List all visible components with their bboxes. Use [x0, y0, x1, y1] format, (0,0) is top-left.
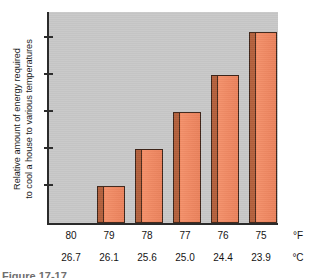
x-label-c-1: 26.1 [91, 250, 127, 266]
bar-78f[interactable] [135, 149, 163, 223]
bar-side-face [136, 150, 142, 222]
y-axis-label: Relative amount of energy required to co… [0, 12, 46, 225]
y-axis-label-line-1: Relative amount of energy required [12, 39, 24, 198]
bar-slot-78f [135, 12, 163, 223]
bar-slot-76f [211, 12, 239, 223]
x-axis-fahrenheit-row: 80 79 78 77 76 75 °F [47, 228, 313, 244]
bar-79f[interactable] [97, 186, 125, 223]
x-label-c-0: 26.7 [53, 250, 89, 266]
bar-front-face [181, 113, 200, 222]
x-label-f-1: 79 [93, 228, 125, 244]
bar-side-face [174, 113, 180, 222]
y-axis-label-line-2: to cool a house to various temperatures [23, 39, 35, 198]
x-label-c-3: 25.0 [167, 250, 203, 266]
bar-side-face [250, 33, 256, 222]
bar-series [49, 12, 278, 223]
bar-chart-figure: Relative amount of energy required to co… [0, 0, 313, 278]
bar-slot-75f [249, 12, 277, 223]
x-label-c-2: 25.6 [129, 250, 165, 266]
plot-area [47, 12, 278, 225]
x-label-c-5: 23.9 [243, 250, 279, 266]
bar-slot-80f [59, 12, 87, 223]
bar-slot-79f [97, 12, 125, 223]
bar-front-face [219, 76, 238, 222]
bar-front-face [105, 187, 124, 222]
x-label-f-5: 75 [245, 228, 277, 244]
x-axis-celsius-row: 26.7 26.1 25.6 25.0 24.4 23.9 °C [47, 250, 313, 266]
bar-slot-77f [173, 12, 201, 223]
bar-front-face [143, 150, 162, 222]
figure-caption: Figure 17-17 [2, 270, 182, 278]
x-label-f-0: 80 [55, 228, 87, 244]
x-unit-celsius: °C [283, 250, 313, 266]
x-label-f-2: 78 [131, 228, 163, 244]
bar-front-face [257, 33, 276, 222]
x-label-f-4: 76 [207, 228, 239, 244]
bar-75f[interactable] [249, 32, 277, 223]
x-label-f-3: 77 [169, 228, 201, 244]
bar-side-face [212, 76, 218, 222]
x-label-c-4: 24.4 [205, 250, 241, 266]
bar-side-face [98, 187, 104, 222]
bar-76f[interactable] [211, 75, 239, 223]
x-unit-fahrenheit: °F [283, 228, 313, 244]
bar-77f[interactable] [173, 112, 201, 223]
